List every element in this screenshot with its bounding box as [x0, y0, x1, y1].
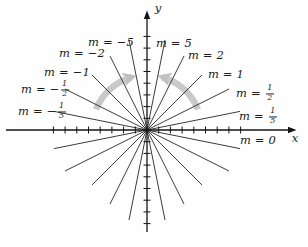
label-x-axis: x — [292, 133, 299, 145]
label-m-neg-half-denominator: 2 — [62, 90, 67, 99]
label-y-axis: y — [155, 3, 162, 15]
label-m-fifth-denominator: 5 — [270, 117, 275, 126]
label-m-neg-fifth-denominator: 5 — [59, 112, 64, 121]
label-m-neg-2: m = −2 — [59, 48, 105, 60]
label-m-half-denominator: 2 — [267, 94, 272, 103]
label-m-5: m = 5 — [156, 38, 192, 50]
label-m-1: m = 1 — [208, 69, 244, 81]
label-m-neg-fifth-prefix: m = − — [18, 104, 57, 118]
label-m-half-fraction: 12 — [266, 84, 274, 103]
label-m-2: m = 2 — [188, 50, 224, 62]
label-m-neg-half-fraction: 12 — [61, 80, 69, 99]
slope-labels-layer: m = −5m = 5m = −2m = 2m = −1m = 1m = −12… — [0, 0, 308, 247]
label-m-0: m = 0 — [240, 135, 276, 147]
label-m-half-prefix: m = — [236, 86, 265, 100]
label-m-neg-1: m = −1 — [44, 67, 90, 79]
label-m-neg-fifth: m = −15 — [18, 102, 66, 121]
label-m-neg-fifth-fraction: 15 — [58, 102, 66, 121]
label-m-fifth-prefix: m = — [239, 109, 268, 123]
label-m-fifth: m = 15 — [239, 107, 277, 126]
label-m-neg-half-prefix: m = − — [21, 82, 60, 96]
label-m-neg-half: m = −12 — [21, 80, 69, 99]
label-m-fifth-fraction: 15 — [269, 107, 277, 126]
label-m-half: m = 12 — [236, 84, 274, 103]
slope-lines-diagram: m = −5m = 5m = −2m = 2m = −1m = 1m = −12… — [0, 0, 308, 247]
